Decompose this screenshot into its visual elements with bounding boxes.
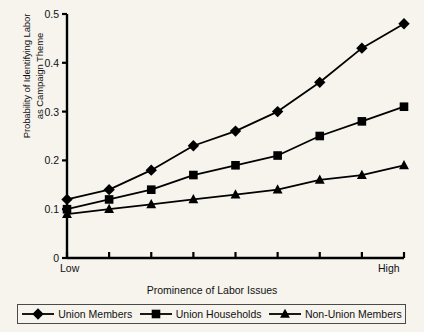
data-point <box>103 184 114 195</box>
y-axis-tick-label: 0.5 <box>29 9 59 19</box>
plot-area <box>67 14 404 258</box>
data-point <box>147 185 156 194</box>
legend-marker-triangle-icon <box>268 307 302 321</box>
series-union-members <box>61 18 409 205</box>
legend-marker-square-icon <box>139 307 173 321</box>
data-point <box>358 117 367 126</box>
y-axis-tick-label: 0.2 <box>29 155 59 165</box>
chart-legend: Union MembersUnion HouseholdsNon-Union M… <box>17 304 406 324</box>
y-axis-tick-label: 0 <box>29 253 59 263</box>
data-point <box>230 125 241 136</box>
data-point <box>272 106 283 117</box>
data-point <box>189 171 198 180</box>
data-point <box>231 161 240 170</box>
plot-svg <box>67 14 404 258</box>
legend-marker-diamond-icon <box>21 307 55 321</box>
y-axis-tick-label: 0.4 <box>29 58 59 68</box>
x-axis-label-low: Low <box>60 262 79 274</box>
legend-item[interactable]: Union Households <box>139 307 262 321</box>
data-point <box>400 102 409 111</box>
legend-marker <box>151 310 160 319</box>
x-axis-label-high: High <box>378 262 400 274</box>
chart-figure: Probability of Identifying Labor as Camp… <box>0 0 424 332</box>
data-point <box>188 140 199 151</box>
legend-item[interactable]: Non-Union Members <box>268 307 402 321</box>
axes-layer <box>62 14 404 258</box>
legend-label: Non-Union Members <box>305 309 402 320</box>
series-layer <box>61 18 409 218</box>
data-point <box>146 164 157 175</box>
y-axis-tick-label: 0.1 <box>29 204 59 214</box>
data-point <box>273 151 282 160</box>
data-point <box>61 194 72 205</box>
x-axis-title: Prominence of Labor Issues <box>0 284 424 296</box>
legend-label: Union Households <box>176 309 262 320</box>
legend-marker <box>33 308 44 319</box>
legend-item[interactable]: Union Members <box>21 307 132 321</box>
series-line <box>67 24 404 200</box>
data-point <box>398 18 409 29</box>
data-point <box>399 160 409 169</box>
data-point <box>315 132 324 141</box>
data-point <box>105 195 114 204</box>
legend-label: Union Members <box>58 309 132 320</box>
y-axis-tick-label: 0.3 <box>29 107 59 117</box>
